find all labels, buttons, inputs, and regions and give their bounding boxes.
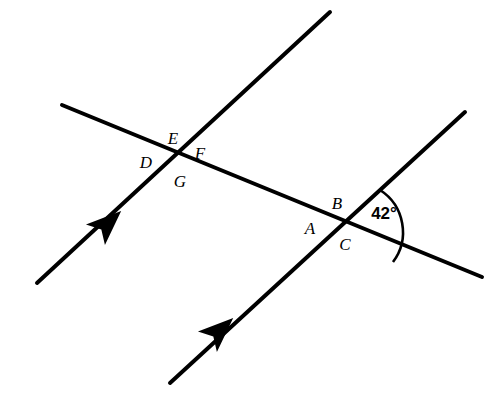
point-label-F: F (194, 144, 206, 163)
point-label-A: A (304, 219, 316, 238)
transversal-line (62, 105, 482, 277)
angle-measure-label: 42° (371, 204, 397, 223)
parallel-arrow-right-icon (198, 308, 243, 352)
point-label-B: B (332, 194, 343, 213)
point-label-C: C (339, 235, 351, 254)
geometry-canvas: E F D G B A C 42° (0, 0, 501, 401)
geometry-diagram: E F D G B A C 42° (0, 0, 501, 401)
parallel-line-left (37, 12, 330, 283)
angle-arc (380, 190, 403, 262)
point-label-G: G (174, 172, 186, 191)
parallel-line-right (170, 112, 465, 383)
point-label-D: D (139, 153, 153, 172)
point-label-E: E (167, 129, 179, 148)
parallel-arrow-left-icon (86, 201, 131, 245)
